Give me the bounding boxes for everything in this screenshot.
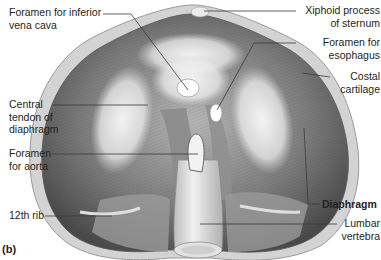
label-xiphoid: Xiphoid process of sternum	[298, 4, 380, 29]
label-line: Costal	[298, 70, 380, 83]
label-line: 12th rib	[9, 209, 44, 222]
label-diaphragm: Diaphragm	[322, 198, 377, 211]
diaphragm-figure: Foramen for inferior vena cava Central t…	[0, 0, 381, 260]
label-12th-rib: 12th rib	[9, 209, 44, 222]
foramen-esophagus	[210, 104, 222, 122]
label-foramen-ivc: Foramen for inferior vena cava	[9, 6, 101, 31]
label-line: Central	[9, 98, 59, 111]
label-line: cartilage	[298, 83, 380, 96]
label-lumbar-vertebra: Lumbar vertebra	[298, 217, 380, 242]
label-line: of sternum	[298, 17, 380, 30]
label-foramen-aorta: Foramen for aorta	[9, 147, 51, 172]
label-line: Xiphoid process	[298, 4, 380, 17]
label-line: vena cava	[9, 19, 101, 32]
label-central-tendon: Central tendon of diaphragm	[9, 98, 59, 136]
label-line: Lumbar	[298, 217, 380, 230]
panel-label: (b)	[2, 243, 16, 255]
label-line: Diaphragm	[322, 198, 377, 211]
lumbar-vertebra-body	[174, 160, 223, 250]
foramen-ivc	[177, 79, 199, 97]
label-line: diaphragm	[9, 123, 59, 136]
label-line: Foramen for inferior	[9, 6, 101, 19]
label-line: Foramen for	[298, 36, 380, 49]
label-costal-cartilage: Costal cartilage	[298, 70, 380, 95]
label-line: Foramen	[9, 147, 51, 160]
label-line: vertebra	[298, 230, 380, 243]
label-line: tendon of	[9, 111, 59, 124]
xiphoid-process	[191, 7, 209, 17]
label-line: for aorta	[9, 160, 51, 173]
label-line: esophagus	[298, 49, 380, 62]
label-foramen-esophagus: Foramen for esophagus	[298, 36, 380, 61]
aortic-hiatus	[188, 134, 204, 172]
